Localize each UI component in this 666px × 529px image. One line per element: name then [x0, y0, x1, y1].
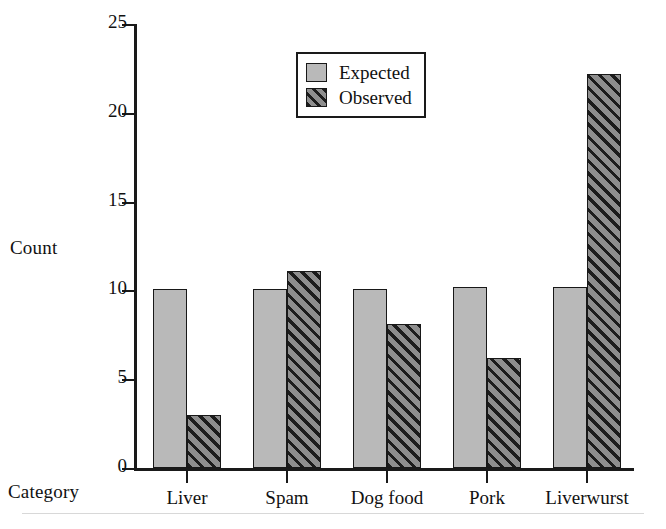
x-tick-mark	[386, 471, 388, 483]
legend-label: Expected	[339, 62, 410, 83]
x-tick-label: Liverwurst	[545, 487, 628, 509]
bar-observed	[187, 415, 221, 468]
bar-expected	[353, 289, 387, 468]
x-tick-mark	[286, 471, 288, 483]
x-axis-line	[134, 468, 634, 471]
y-tick-label: 25	[108, 12, 127, 32]
plot-area: 0510152025 LiverSpamDog foodPorkLiverwur…	[134, 24, 634, 471]
bar-observed	[587, 74, 621, 468]
x-tick-label: Spam	[265, 487, 308, 509]
legend: Expected Observed	[296, 52, 426, 118]
y-tick-label: 5	[118, 367, 128, 387]
y-tick-label: 20	[108, 101, 127, 121]
bar-expected	[253, 289, 287, 468]
x-tick-mark	[586, 471, 588, 483]
legend-item: Observed	[306, 85, 412, 110]
legend-swatch-expected-icon	[306, 63, 327, 82]
bar-observed	[487, 358, 521, 468]
legend-swatch-observed-icon	[306, 88, 327, 107]
bar-chart: Count Category 0510152025 LiverSpamDog f…	[0, 0, 666, 529]
x-tick-label: Pork	[469, 487, 505, 509]
legend-label: Observed	[339, 87, 412, 108]
y-tick-label: 15	[108, 190, 127, 210]
bar-observed	[387, 324, 421, 468]
legend-item: Expected	[306, 60, 412, 85]
bar-expected	[153, 289, 187, 468]
x-tick-label: Liver	[166, 487, 207, 509]
bar-expected	[553, 287, 587, 468]
cropped-title-remnant	[0, 0, 666, 6]
y-axis-line	[134, 24, 137, 471]
y-tick-label: 0	[118, 456, 128, 476]
x-axis-label: Category	[8, 481, 79, 503]
bar-observed	[287, 271, 321, 468]
bar-expected	[453, 287, 487, 468]
x-tick-mark	[186, 471, 188, 483]
y-axis-label: Count	[10, 237, 57, 259]
page-divider	[22, 513, 644, 514]
x-tick-mark	[486, 471, 488, 483]
x-tick-label: Dog food	[351, 487, 423, 509]
y-tick-label: 10	[108, 278, 127, 298]
